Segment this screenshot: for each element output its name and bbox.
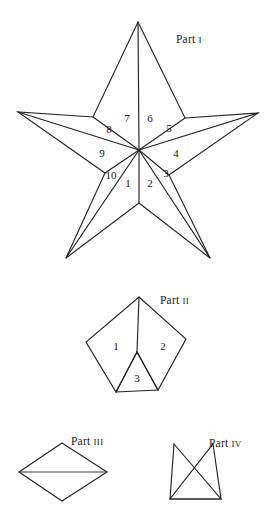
star-spoke-bottom-right [139, 150, 210, 258]
part-2-divider-vertical [137, 297, 139, 352]
part-3-caption-text: Part [71, 435, 90, 447]
part-3-caption: Part III [71, 435, 104, 447]
part-2-caption-text: Part [160, 294, 179, 306]
part-2-region-label-1: 1 [113, 340, 119, 352]
part-4-crossing-triangles [170, 444, 221, 499]
part-3-rhombus [19, 443, 107, 501]
star-region-label-4: 4 [173, 147, 179, 159]
star-region-label-6: 6 [147, 112, 153, 124]
star-region-label-8: 8 [106, 123, 112, 135]
part-2-triangle-right-edge [137, 352, 158, 390]
part-3-caption-roman: III [93, 437, 103, 447]
star-spoke-bottom-left [66, 150, 139, 258]
star-region-label-9: 9 [99, 147, 105, 159]
part-4-caption-roman: IV [231, 439, 241, 449]
star-spoke-inner-upper-left [93, 117, 139, 150]
star-region-label-10: 10 [106, 169, 118, 181]
part-2-triangle-base [116, 390, 158, 392]
part-2-caption-roman: II [182, 296, 189, 306]
star-spoke-top [138, 22, 139, 150]
star-spoke-inner-upper-right [139, 118, 185, 150]
part-4-caption-text: Part [209, 437, 228, 449]
part-1-star: 1 2 3 4 5 6 7 8 9 10 [18, 22, 258, 258]
star-region-label-5: 5 [166, 122, 172, 134]
figure-root: 1 2 3 4 5 6 7 8 9 10 1 2 3 [0, 0, 271, 525]
part-2-caption: Part II [160, 294, 189, 306]
part-2-polygon: 1 2 3 [86, 297, 186, 392]
star-region-label-1: 1 [125, 177, 131, 189]
part-1-caption: Part I [176, 33, 202, 45]
part-1-caption-text: Part [176, 33, 195, 45]
star-spoke-right [139, 113, 258, 150]
part-2-region-label-3: 3 [134, 372, 140, 384]
star-region-label-7: 7 [124, 112, 130, 124]
part-4-triangle-left [170, 444, 221, 499]
star-spoke-left [18, 112, 139, 150]
star-region-label-2: 2 [147, 177, 153, 189]
part-2-region-label-2: 2 [160, 340, 166, 352]
star-region-label-3: 3 [163, 167, 169, 179]
part-4-caption: Part IV [209, 437, 242, 449]
part-1-caption-roman: I [198, 35, 201, 45]
